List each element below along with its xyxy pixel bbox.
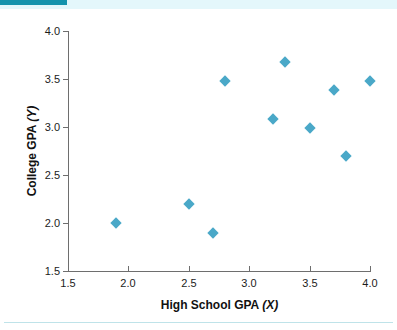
data-point (304, 122, 315, 133)
data-point (328, 84, 339, 95)
data-point (268, 114, 279, 125)
y-tick (63, 271, 68, 272)
scatter-chart-figure: 1.52.02.53.03.54.0 1.52.02.53.03.54.0 Hi… (0, 0, 397, 330)
x-tick-label: 3.0 (229, 278, 269, 289)
x-axis-line (68, 271, 371, 272)
y-axis-title: College GPA (Y) (25, 31, 39, 271)
bottom-divider (4, 322, 393, 323)
x-tick-label: 3.5 (290, 278, 330, 289)
x-tick (370, 266, 371, 271)
x-axis-title: High School GPA (X) (68, 298, 371, 312)
data-point (364, 75, 375, 86)
data-point (207, 227, 218, 238)
y-axis-title-text: College GPA (25, 122, 39, 197)
x-tick-label: 2.5 (169, 278, 209, 289)
x-tick-label: 4.0 (350, 278, 390, 289)
x-axis-title-text: High School GPA (161, 298, 262, 312)
plot-area (68, 31, 370, 271)
data-point (183, 198, 194, 209)
data-point (111, 217, 122, 228)
x-axis-title-variable: (X) (262, 298, 278, 312)
data-point (280, 56, 291, 67)
data-point (340, 150, 351, 161)
x-tick-label: 1.5 (48, 278, 88, 289)
x-tick-label: 2.0 (108, 278, 148, 289)
data-point (219, 75, 230, 86)
y-axis-title-variable: (Y) (25, 106, 39, 122)
